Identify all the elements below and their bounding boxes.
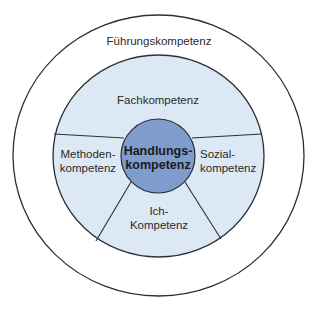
segment-left-label-line2: kompetenz [60, 162, 117, 174]
center-label-line1: Handlungs- [124, 144, 193, 158]
segment-left-label-line1: Methoden- [61, 148, 116, 160]
center-label-line2: kompetenz [125, 158, 190, 172]
outer-ring-label: Führungskompetenz [107, 35, 212, 47]
segment-bottom-label-line1: Ich- [149, 205, 168, 217]
segment-right-label-line1: Sozial- [200, 148, 235, 160]
competence-diagram: Führungskompetenz Fachkompetenz Methoden… [0, 0, 320, 309]
segment-bottom-label-line2: Kompetenz [130, 219, 188, 231]
segment-top-label: Fachkompetenz [117, 94, 199, 106]
segment-right-label-line2: kompetenz [200, 162, 257, 174]
